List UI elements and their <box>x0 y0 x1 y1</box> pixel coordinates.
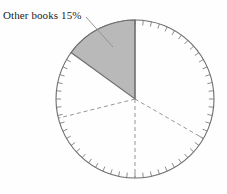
slice-divider-dashed <box>58 99 135 118</box>
tick-mark <box>58 83 63 84</box>
tick-mark <box>185 154 188 158</box>
slice-divider-dashed <box>135 99 203 139</box>
tick-mark <box>195 53 199 56</box>
highlighted-slice-other-books[interactable] <box>71 20 135 99</box>
tick-mark <box>165 167 167 172</box>
tick-mark <box>150 171 151 176</box>
tick-mark <box>82 154 85 158</box>
tick-mark <box>119 171 120 176</box>
tick-mark <box>150 22 151 27</box>
tick-mark <box>158 169 160 174</box>
tick-mark <box>158 24 160 29</box>
tick-mark <box>60 75 65 77</box>
tick-mark <box>190 149 194 152</box>
tick-mark <box>203 129 208 131</box>
tick-mark <box>143 20 144 25</box>
tick-mark <box>172 31 175 35</box>
tick-mark <box>209 107 214 108</box>
tick-mark <box>58 114 63 115</box>
tick-mark <box>185 40 188 44</box>
tick-mark <box>67 60 71 63</box>
tick-mark <box>165 27 167 32</box>
tick-mark <box>63 67 68 69</box>
tick-mark <box>63 129 68 131</box>
tick-mark <box>205 122 210 124</box>
tick-mark <box>127 173 128 178</box>
pie-chart-figure: Other books 15% <box>0 0 227 194</box>
tick-mark <box>209 91 214 92</box>
tick-mark <box>195 142 199 145</box>
tick-mark <box>71 142 75 145</box>
tick-mark <box>103 167 105 172</box>
tick-mark <box>205 75 210 77</box>
tick-mark <box>172 163 175 167</box>
tick-mark <box>178 35 181 39</box>
tick-mark <box>207 114 212 115</box>
tick-mark <box>89 159 92 163</box>
tick-mark <box>56 107 61 108</box>
tick-mark <box>143 173 144 178</box>
slice-label-other-books: Other books 15% <box>3 9 82 21</box>
dashed-divider-group <box>58 99 203 178</box>
tick-mark <box>67 136 71 139</box>
tick-mark <box>190 46 194 49</box>
tick-mark <box>111 169 113 174</box>
tick-mark <box>207 83 212 84</box>
tick-mark <box>199 60 203 63</box>
tick-mark <box>76 149 80 152</box>
tick-mark <box>60 122 65 124</box>
pie-chart-svg <box>0 0 227 194</box>
tick-mark <box>203 67 208 69</box>
tick-mark <box>178 159 181 163</box>
tick-mark <box>56 91 61 92</box>
tick-mark <box>96 163 99 167</box>
